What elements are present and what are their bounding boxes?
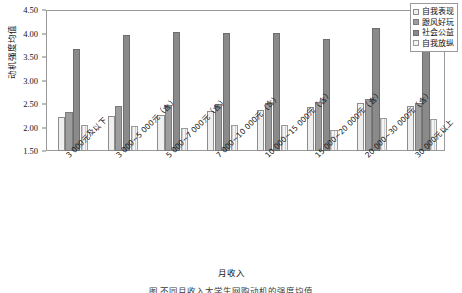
legend-swatch-icon — [413, 30, 419, 36]
bar — [123, 35, 130, 151]
figure-caption: 图 不同月收入大学生网购动机的强度均值 — [0, 284, 462, 293]
legend-item[interactable]: 跟风好玩 — [413, 17, 454, 27]
legend-label: 自我表现 — [422, 7, 454, 16]
legend: 自我表现跟风好玩社会公益自我放纵 — [410, 3, 458, 52]
chart-figure: 1.502.002.503.003.504.004.50 动机强度均值 3 00… — [0, 0, 462, 293]
y-tick-label: 4.50 — [23, 5, 38, 15]
x-axis-title: 月收入 — [0, 266, 462, 278]
y-tick-label: 4.00 — [23, 29, 38, 39]
bar — [223, 33, 230, 151]
legend-swatch-icon — [413, 19, 419, 25]
bar — [173, 32, 180, 151]
legend-label: 跟风好玩 — [422, 18, 454, 27]
x-axis-labels: 3 000元及以下3 000~5 000元（含）5 000~7 000元（含）7… — [46, 152, 445, 272]
bar — [58, 117, 65, 151]
legend-swatch-icon — [413, 40, 419, 46]
y-tick-label: 2.00 — [23, 123, 38, 133]
y-tick-label: 2.50 — [23, 99, 38, 109]
y-tick-label: 3.50 — [23, 52, 38, 62]
legend-item[interactable]: 自我表现 — [413, 7, 454, 17]
legend-item[interactable]: 社会公益 — [413, 28, 454, 38]
legend-item[interactable]: 自我放纵 — [413, 38, 454, 48]
y-tick-label: 3.00 — [23, 76, 38, 86]
y-tick-label: 1.50 — [23, 146, 38, 156]
legend-swatch-icon — [413, 9, 419, 15]
legend-label: 自我放纵 — [422, 39, 454, 48]
legend-label: 社会公益 — [422, 28, 454, 37]
y-axis-title: 动机强度均值 — [5, 17, 17, 87]
